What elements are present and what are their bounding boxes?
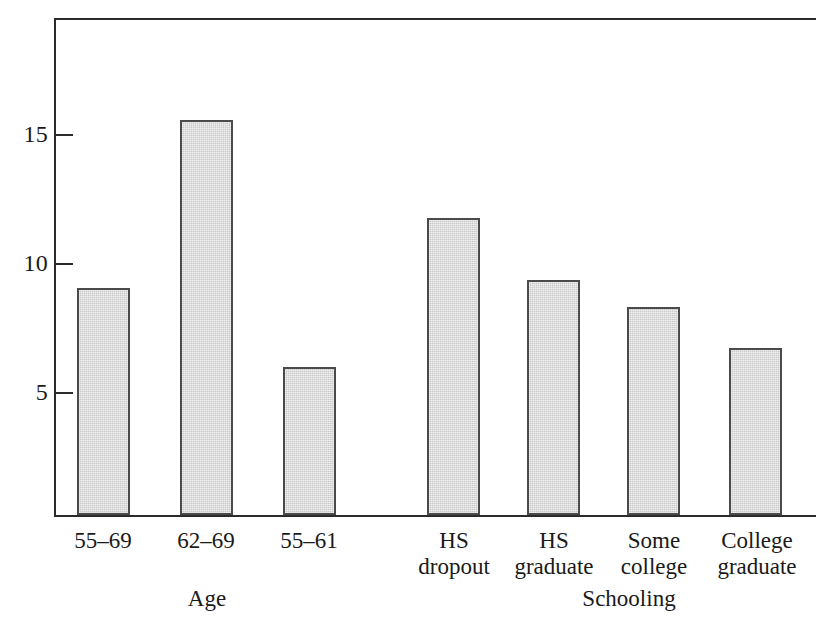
- x-tick-line2: graduate: [701, 554, 813, 580]
- x-axis: 55–69 62–69 55–61 HS dropout HS graduate…: [0, 0, 832, 622]
- x-tick-schooling-college-graduate: College graduate: [701, 528, 813, 580]
- x-group-label-schooling: Schooling: [549, 586, 709, 612]
- x-tick-line1: College: [721, 528, 793, 553]
- x-tick-schooling-some-college: Some college: [600, 528, 708, 580]
- x-tick-line2: dropout: [400, 554, 508, 580]
- x-tick-line2: college: [600, 554, 708, 580]
- x-tick-line1: 62–69: [177, 528, 235, 553]
- x-tick-line1: 55–69: [74, 528, 132, 553]
- x-tick-age-62-69: 62–69: [156, 528, 256, 554]
- x-tick-age-55-69: 55–69: [53, 528, 153, 554]
- x-group-label-age: Age: [155, 586, 259, 612]
- x-tick-line1: HS: [539, 528, 568, 553]
- x-tick-line1: HS: [439, 528, 468, 553]
- x-tick-line2: graduate: [500, 554, 608, 580]
- x-tick-age-55-61: 55–61: [259, 528, 359, 554]
- x-tick-schooling-hs-graduate: HS graduate: [500, 528, 608, 580]
- x-tick-schooling-hs-dropout: HS dropout: [400, 528, 508, 580]
- bar-chart-figure: 15 10 5 55–69 62–69 55–61 HS dropout H: [0, 0, 832, 622]
- x-tick-line1: Some: [628, 528, 680, 553]
- x-tick-line1: 55–61: [280, 528, 338, 553]
